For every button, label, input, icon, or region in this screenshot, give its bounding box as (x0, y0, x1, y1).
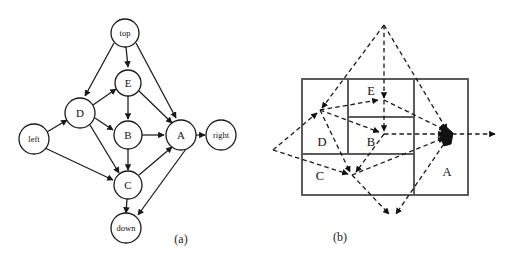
edge-left-D (47, 120, 67, 132)
dedge-left-D (273, 113, 317, 150)
node-right[interactable]: right (206, 120, 236, 150)
edge-D-B (95, 118, 113, 130)
node-A[interactable]: A (166, 120, 196, 150)
node-left[interactable]: left (19, 124, 49, 154)
node-C[interactable]: C (114, 171, 142, 199)
dedge-D-B (320, 110, 379, 132)
edge-E-A (139, 91, 172, 123)
node-B-label: B (124, 129, 131, 141)
box-E-label: E (367, 84, 375, 98)
dedge-top-A (384, 25, 447, 130)
node-top-label: top (120, 28, 131, 38)
convergence-blob-A (440, 124, 453, 146)
node-down-label: down (117, 223, 137, 233)
node-B[interactable]: B (114, 121, 142, 149)
figure-canvas: top E D B A (0, 0, 509, 264)
dedge-A-down (396, 138, 448, 214)
box-D-label: D (317, 135, 326, 149)
panel-a-graph: top E D B A (19, 19, 236, 246)
dedge-D-E (320, 100, 378, 110)
edge-D-E (93, 89, 116, 105)
panel-a-caption: (a) (174, 232, 187, 246)
edge-top-E (126, 47, 128, 67)
node-top[interactable]: top (111, 19, 139, 47)
node-A-label: A (177, 129, 185, 141)
edge-top-D (85, 43, 114, 96)
panel-b-caption: (b) (333, 230, 347, 244)
node-D[interactable]: D (65, 98, 95, 128)
panel-a-nodes: top E D B A (19, 19, 236, 243)
node-D-label: D (76, 107, 84, 119)
box-C-label: C (316, 169, 324, 183)
node-E[interactable]: E (115, 70, 141, 96)
box-E[interactable] (348, 79, 414, 117)
box-B[interactable] (348, 117, 414, 154)
panel-b-edges (273, 25, 495, 214)
edge-C-down (126, 199, 127, 213)
edge-left-C (45, 148, 113, 180)
edge-C-A (139, 147, 172, 175)
node-E-label: E (125, 77, 132, 89)
edge-A-down (138, 149, 186, 215)
node-right-label: right (213, 130, 230, 140)
figure-root: top E D B A (0, 0, 509, 264)
dedge-C-A (352, 138, 444, 175)
panel-b-layout: D E B C A (273, 25, 495, 244)
box-A-label: A (442, 165, 451, 179)
node-down[interactable]: down (111, 213, 141, 243)
node-left-label: left (28, 134, 40, 144)
node-C-label: C (124, 179, 131, 191)
